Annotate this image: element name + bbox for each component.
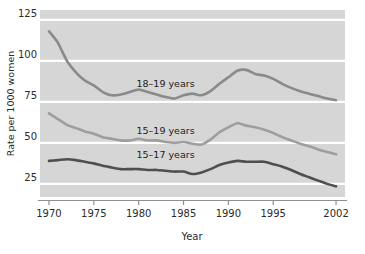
x-tick-label-1980: 1980 bbox=[126, 208, 151, 219]
x-tick-label-1970: 1970 bbox=[36, 208, 61, 219]
y-tick-label-50: 50 bbox=[24, 131, 37, 142]
series-label-1: 15–19 years bbox=[137, 125, 195, 136]
series-label-2: 15–17 years bbox=[137, 149, 195, 160]
y-tick-label-125: 125 bbox=[18, 8, 37, 19]
x-axis-title: Year bbox=[180, 231, 203, 242]
y-axis-title: Rate per 1000 women bbox=[5, 51, 16, 157]
teen-birth-rate-chart: 255075100125 197019751980198519901995200… bbox=[0, 0, 365, 254]
y-tick-label-100: 100 bbox=[18, 49, 37, 60]
x-tick-label-1995: 1995 bbox=[261, 208, 286, 219]
chart-canvas: 255075100125 197019751980198519901995200… bbox=[0, 0, 365, 254]
x-tick-label-1990: 1990 bbox=[216, 208, 241, 219]
x-tick-label-1985: 1985 bbox=[171, 208, 196, 219]
series-label-0: 18–19 years bbox=[137, 78, 195, 89]
y-tick-label-25: 25 bbox=[24, 172, 37, 183]
plot-area-background bbox=[40, 10, 345, 197]
x-tick-label-2002: 2002 bbox=[323, 208, 348, 219]
x-tick-label-1975: 1975 bbox=[81, 208, 106, 219]
y-tick-label-75: 75 bbox=[24, 90, 37, 101]
